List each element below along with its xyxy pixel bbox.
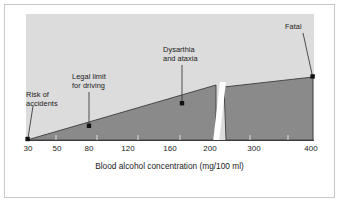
x-tick-label-300: 300: [247, 144, 260, 153]
annotation-risk-of-accidents: Risk of accidents: [26, 90, 58, 108]
x-tick-label-30: 30: [24, 144, 33, 153]
annotation-dysarthia-line-2: and ataxia: [163, 54, 198, 63]
severity-wedge-right: [224, 77, 313, 140]
marker-fatal: [310, 74, 314, 78]
x-tick-label-160: 160: [163, 144, 176, 153]
marker-dysarthia: [180, 101, 184, 105]
x-tick-label-50: 50: [53, 144, 62, 153]
leader-line-risk-of-accidents: [28, 106, 33, 138]
annotation-fatal: Fatal: [285, 22, 302, 31]
annotation-risk-line-1: Risk of: [26, 90, 58, 99]
annotation-dysarthia-and-ataxia: Dysarthia and ataxia: [163, 45, 198, 63]
marker-legal-limit: [87, 124, 91, 128]
x-axis-title: Blood alcohol concentration (mg/100 ml): [0, 161, 339, 171]
blood-alcohol-chart-figure: Risk of accidents Legal limit for drivin…: [0, 0, 339, 202]
marker-risk-of-accidents: [25, 137, 29, 141]
annotation-risk-line-2: accidents: [26, 99, 58, 108]
x-tick-label-200: 200: [203, 144, 216, 153]
x-tick-label-80: 80: [85, 144, 94, 153]
x-tick-label-400: 400: [304, 144, 317, 153]
annotation-legal-line-1: Legal limit: [72, 72, 106, 81]
annotation-dysarthia-line-1: Dysarthia: [163, 45, 198, 54]
annotation-legal-line-2: for driving: [72, 81, 106, 90]
leader-line-fatal: [303, 33, 312, 74]
annotation-fatal-line-1: Fatal: [285, 22, 302, 31]
annotation-legal-limit-for-driving: Legal limit for driving: [72, 72, 106, 90]
x-tick-label-120: 120: [121, 144, 134, 153]
